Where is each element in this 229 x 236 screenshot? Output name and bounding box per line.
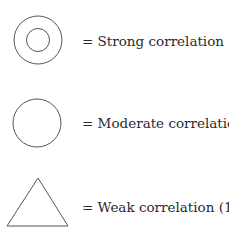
double-circle-icon <box>14 16 62 64</box>
weak-correlation-label: = Weak correlation (1) <box>82 199 229 215</box>
moderate-correlation-label: = Moderate correlation (3) <box>82 115 229 131</box>
triangle-icon <box>7 178 68 226</box>
circle-icon <box>13 99 61 147</box>
strong-correlation-label: = Strong correlation (9) <box>82 33 229 49</box>
correlation-legend: = Strong correlation (9) = Moderate corr… <box>0 0 229 236</box>
